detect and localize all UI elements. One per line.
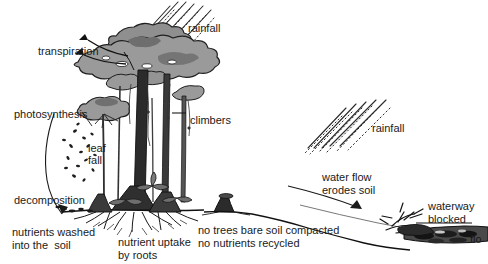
label-no-trees-line1: no trees bare soil compacted (198, 224, 339, 237)
label-leaf-fall-line2: fall (88, 154, 102, 167)
label-nutrients-washed-line2: into the soil (12, 239, 71, 252)
label-waterway-line2: blocked (428, 213, 466, 226)
label-water-flow-line1: water flow (322, 171, 372, 184)
label-nutrients-washed-line1: nutrients washed (12, 226, 95, 239)
label-decomposition: decomposition (14, 194, 85, 207)
label-climbers: climbers (190, 114, 231, 127)
label-rainfall-forest: rainfall (188, 22, 220, 35)
label-waterway-line1: waterway (428, 200, 474, 213)
label-rainfall-deforested: rainfall (372, 122, 404, 135)
label-nutrient-uptake-line2: by roots (118, 249, 157, 262)
label-transpiration: transpiration (38, 45, 99, 58)
diagram-canvas: transpiration rainfall photosynthesis cl… (0, 0, 488, 264)
waterway-debris-mass (398, 224, 434, 235)
label-water-flow-line2: erodes soil (322, 184, 375, 197)
label-nutrient-uptake-line1: nutrient uptake (118, 236, 191, 249)
label-leaf-fall-line1: leaf (88, 142, 106, 155)
label-flooding-truncated: flo (470, 233, 482, 246)
label-no-trees-line2: no nutrients recycled (198, 237, 300, 250)
label-photosynthesis: photosynthesis (14, 108, 87, 121)
